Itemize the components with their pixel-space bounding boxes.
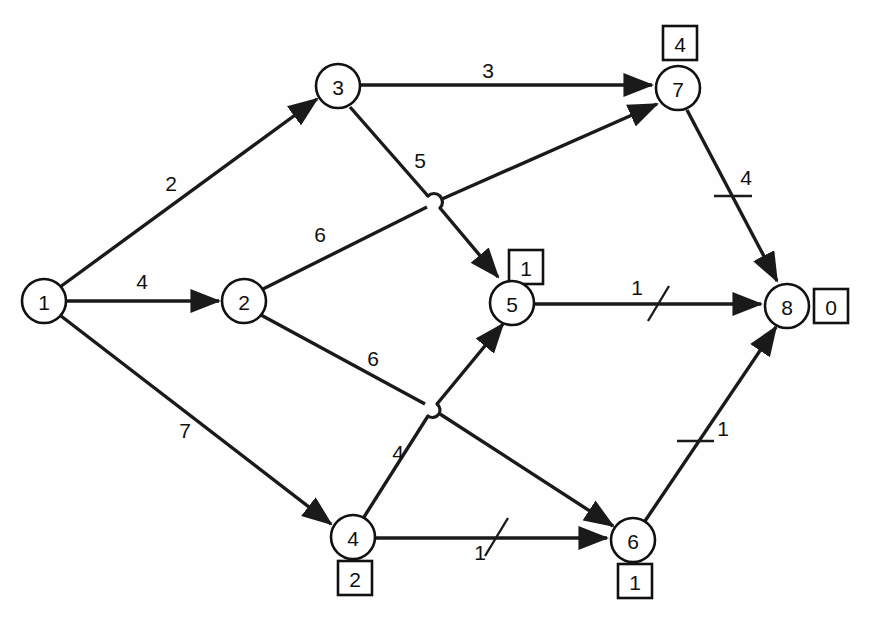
edge-3-7: 3 [361,59,652,86]
edge-4-5-seg-b [437,324,503,404]
node-box-4: 2 [338,561,372,595]
diagram-canvas: 2 4 7 3 6 5 6 4 [0,0,872,618]
edge-7-8: 4 [687,110,777,281]
node-8[interactable]: 8 [765,284,809,328]
edge-2-6-seg-b [440,414,613,526]
edge-4-6: 1 [376,518,607,564]
edge-6-8-weight: 1 [717,417,729,440]
node-box-5-value: 1 [520,257,532,280]
node-box-6: 1 [618,564,652,598]
node-6[interactable]: 6 [611,518,655,562]
node-box-5: 1 [509,250,543,284]
edge-2-7-weight: 6 [314,223,326,246]
edge-6-8-line [645,327,776,521]
edge-1-3-line [60,99,317,287]
edge-4-5: 4 [364,324,503,517]
node-box-8: 0 [814,289,848,323]
node-7-label: 7 [672,78,684,101]
edge-2-6-weight: 6 [367,347,379,370]
edge-2-7-seg-b [442,104,657,199]
node-5-label: 5 [506,293,518,316]
edge-2-6-seg-a [261,315,425,404]
edge-2-7: 6 [263,104,657,289]
edge-6-8: 1 [645,327,776,521]
edge-2-6: 6 [261,315,613,526]
edge-1-3-weight: 2 [165,172,177,195]
node-4-label: 4 [347,527,359,550]
graph-svg: 2 4 7 3 6 5 6 4 [0,0,872,618]
node-6-label: 6 [627,530,639,553]
edge-3-5-seg-b [440,208,498,277]
edge-5-8: 1 [535,276,761,322]
node-1-label: 1 [38,291,50,314]
edge-3-5-bridge [428,194,442,208]
node-box-8-value: 0 [825,296,837,319]
edge-1-4-line [61,316,331,524]
node-8-label: 8 [781,296,793,319]
node-3[interactable]: 3 [316,64,360,108]
edge-2-7-seg-a [263,207,427,289]
edge-1-4-weight: 7 [179,419,191,442]
node-3-label: 3 [332,76,344,99]
node-7[interactable]: 7 [656,66,700,110]
node-box-7: 4 [663,26,697,60]
edge-5-8-weight: 1 [631,276,643,299]
edge-1-4: 7 [61,316,331,524]
edge-4-5-seg-a [364,416,428,517]
edge-1-3: 2 [60,99,317,287]
node-2[interactable]: 2 [222,279,266,323]
edge-4-5-weight: 4 [392,441,404,464]
edge-4-6-weight: 1 [474,541,486,564]
edge-3-7-weight: 3 [482,59,494,82]
node-4[interactable]: 4 [331,515,375,559]
node-2-label: 2 [238,291,250,314]
edge-4-5-bridge [428,404,440,418]
edge-7-8-weight: 4 [740,166,752,189]
node-1[interactable]: 1 [22,279,66,323]
edge-3-5-weight: 5 [414,149,426,172]
node-box-6-value: 1 [629,571,641,594]
edge-1-2-weight: 4 [136,270,148,293]
node-box-7-value: 4 [674,33,686,56]
node-5[interactable]: 5 [490,281,534,325]
node-box-4-value: 2 [349,568,361,591]
edge-1-2: 4 [67,270,219,302]
edge-3-5: 5 [350,107,498,277]
